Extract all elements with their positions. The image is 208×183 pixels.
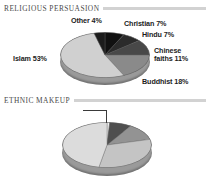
pie-label-chinese-faiths-line2: faiths 11%: [154, 55, 188, 64]
pie-label-islam: Islam 53%: [13, 55, 47, 64]
chart-panel-religious-persuasion: RELIGIOUS PERSUASION: [0, 0, 208, 92]
chart-panel-ethnic-makeup: ETHNIC MAKEUP: [0, 92, 208, 183]
section-header-ethnic-makeup: ETHNIC MAKEUP: [4, 95, 206, 106]
pie-label-chinese-faiths-line1: Chinese: [154, 47, 181, 56]
section-title: ETHNIC MAKEUP: [4, 96, 70, 105]
pie-chart-ethnic-makeup: [62, 122, 152, 176]
leader-line-horizontal-other: [83, 110, 107, 111]
leader-line-vertical-other: [106, 110, 107, 123]
pie-label-other: Other 4%: [71, 17, 102, 26]
header-rule: [74, 99, 206, 102]
pie-label-christian: Christian 7%: [124, 20, 166, 29]
section-header-religious-persuasion: RELIGIOUS PERSUASION: [4, 3, 206, 14]
pie-surface: [62, 122, 152, 168]
pie-chart-religious-persuasion: [60, 32, 150, 84]
header-rule: [103, 7, 206, 10]
section-title: RELIGIOUS PERSUASION: [4, 4, 99, 13]
pie-surface: [60, 32, 150, 78]
infographic-root: RELIGIOUS PERSUASION: [0, 0, 208, 183]
